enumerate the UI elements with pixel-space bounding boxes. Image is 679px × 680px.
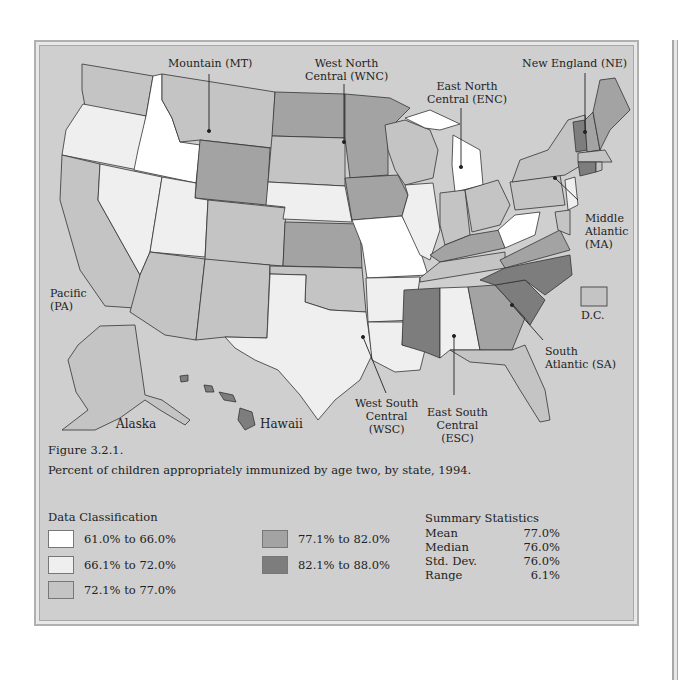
legend-swatch <box>48 530 74 548</box>
legend-label: 72.1% to 77.0% <box>84 583 176 597</box>
stat-label: Range <box>425 568 462 582</box>
state-co <box>205 200 286 266</box>
label-wnc: West North Central (WNC) <box>305 57 388 83</box>
label-dc: D.C. <box>581 309 604 322</box>
label-wnc-line2: Central (WNC) <box>305 70 388 83</box>
label-ma: Middle Atlantic (MA) <box>585 212 628 251</box>
label-pacific: Pacific (PA) <box>50 287 87 313</box>
label-ma-line2: Atlantic <box>585 225 628 238</box>
stat-row-range: Range 6.1% <box>425 568 560 582</box>
state-hi-2 <box>204 385 214 392</box>
state-wy <box>195 140 270 205</box>
label-esc-line3: (ESC) <box>427 432 488 445</box>
state-oh <box>465 180 510 232</box>
label-ma-line1: Middle <box>585 212 628 225</box>
state-hi-3 <box>219 392 236 402</box>
legend-swatch <box>48 556 74 574</box>
label-mountain: Mountain (MT) <box>168 57 252 70</box>
label-pa-line1: Pacific <box>50 287 87 300</box>
legend-item: 77.1% to 82.0% <box>262 530 390 548</box>
stat-row-mean: Mean 77.0% <box>425 526 560 540</box>
label-sa: South Atlantic (SA) <box>545 345 616 371</box>
label-wnc-line1: West North <box>305 57 388 70</box>
label-esc-line2: Central <box>427 419 488 432</box>
state-wv <box>498 212 540 248</box>
stat-label: Median <box>425 540 469 554</box>
state-ia <box>345 175 408 220</box>
figure-number: Figure 3.2.1. <box>48 443 123 457</box>
legend-swatch <box>48 581 74 599</box>
stat-value: 6.1% <box>531 568 560 582</box>
label-esc-line1: East South <box>427 406 488 419</box>
stat-value: 77.0% <box>523 526 560 540</box>
stat-label: Mean <box>425 526 458 540</box>
label-ne: New England (NE) <box>522 57 627 70</box>
summary-statistics: Summary Statistics Mean 77.0% Median 76.… <box>425 511 560 582</box>
label-hawaii: Hawaii <box>260 418 303 431</box>
label-enc: East North Central (ENC) <box>427 80 507 106</box>
label-wsc-line1: West South <box>355 397 418 410</box>
label-enc-line2: Central (ENC) <box>427 93 507 106</box>
stat-value: 76.0% <box>523 554 560 568</box>
legend-swatch <box>262 530 288 548</box>
label-wsc-line2: Central <box>355 410 418 423</box>
legend-swatch <box>262 556 288 574</box>
state-sd <box>268 136 345 186</box>
state-ct <box>578 162 596 176</box>
label-pa-line2: (PA) <box>50 300 87 313</box>
summary-title: Summary Statistics <box>425 511 560 526</box>
legend-label: 61.0% to 66.0% <box>84 532 176 546</box>
state-ks <box>283 222 362 268</box>
label-ma-line3: (MA) <box>585 238 628 251</box>
legend-label: 66.1% to 72.0% <box>84 558 176 572</box>
legend-item: 61.0% to 66.0% <box>48 530 176 548</box>
state-mi <box>452 135 483 192</box>
legend-item: 72.1% to 77.0% <box>48 581 176 599</box>
state-hi-1 <box>180 375 188 382</box>
state-hi-4 <box>238 408 255 430</box>
legend-item: 66.1% to 72.0% <box>48 556 176 574</box>
label-sa-line1: South <box>545 345 616 358</box>
stat-row-median: Median 76.0% <box>425 540 560 554</box>
label-esc: East South Central (ESC) <box>427 406 488 445</box>
state-mt <box>162 74 275 148</box>
state-ak <box>62 325 190 430</box>
label-wsc-line3: (WSC) <box>355 423 418 436</box>
label-alaska: Alaska <box>116 418 156 431</box>
legend-item: 82.1% to 88.0% <box>262 556 390 574</box>
stat-value: 76.0% <box>523 540 560 554</box>
state-nd <box>272 92 345 138</box>
state-me <box>593 78 630 150</box>
legend-label: 77.1% to 82.0% <box>298 532 390 546</box>
dc-swatch <box>581 287 607 306</box>
label-sa-line2: Atlantic (SA) <box>545 358 616 371</box>
legend-label: 82.1% to 88.0% <box>298 558 390 572</box>
stat-row-std-dev: Std. Dev. 76.0% <box>425 554 560 568</box>
stat-label: Std. Dev. <box>425 554 477 568</box>
state-nm <box>196 259 270 340</box>
legend-title: Data Classification <box>48 510 158 524</box>
state-ri <box>596 162 602 172</box>
figure-caption: Percent of children appropriately immuni… <box>48 463 471 477</box>
label-enc-line1: East North <box>427 80 507 93</box>
label-wsc: West South Central (WSC) <box>355 397 418 436</box>
